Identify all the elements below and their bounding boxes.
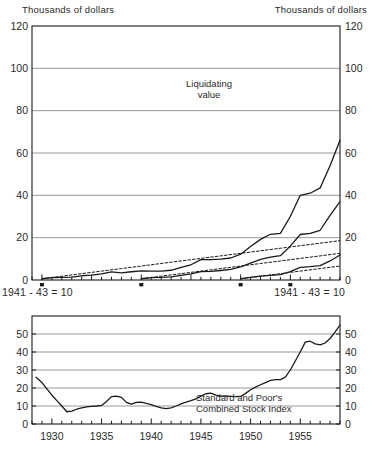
y-tick-label-left: 30 bbox=[16, 364, 28, 376]
y-tick-label-left: 40 bbox=[16, 346, 28, 358]
y-tick-label-left: 40 bbox=[16, 189, 28, 201]
y-tick-label-right: 60 bbox=[345, 147, 357, 159]
y-tick-label-left: 20 bbox=[16, 382, 28, 394]
y-tick-label-left: 80 bbox=[16, 104, 28, 116]
y-tick-label-left: 0 bbox=[22, 274, 28, 286]
y-tick-label-right: 0 bbox=[345, 274, 351, 286]
series-line-solid bbox=[36, 325, 340, 412]
x-tick-label: 1950 bbox=[239, 430, 263, 442]
y-tick-label-right: 30 bbox=[345, 364, 357, 376]
y-tick-label-right: 20 bbox=[345, 231, 357, 243]
y-tick-label-right: 40 bbox=[345, 189, 357, 201]
x-tick-label: 1955 bbox=[289, 430, 313, 442]
program-start-marker bbox=[40, 283, 44, 286]
y-tick-label-right: 10 bbox=[345, 400, 357, 412]
program-start-marker bbox=[139, 283, 143, 286]
y-tick-label-left: 10 bbox=[16, 400, 28, 412]
y-tick-label-left: 0 bbox=[22, 418, 28, 430]
figure-container: Thousands of dollars Thousands of dollar… bbox=[0, 0, 373, 450]
y-tick-label-right: 20 bbox=[345, 382, 357, 394]
y-tick-label-left: 120 bbox=[10, 20, 28, 32]
y-tick-label-right: 120 bbox=[345, 20, 363, 32]
top-panel: 002020404060608080100100120120 bbox=[10, 20, 362, 287]
y-tick-label-right: 80 bbox=[345, 104, 357, 116]
program-start-marker bbox=[239, 283, 243, 286]
y-tick-label-right: 50 bbox=[345, 328, 357, 340]
x-tick-label: 1940 bbox=[140, 430, 164, 442]
x-tick-label: 1945 bbox=[189, 430, 213, 442]
chart-svg: 0020204040606080801001001201200010102020… bbox=[0, 0, 373, 450]
x-tick-label: 1930 bbox=[40, 430, 64, 442]
x-tick-label: 1935 bbox=[90, 430, 114, 442]
y-tick-label-right: 100 bbox=[345, 62, 363, 74]
y-tick-label-left: 60 bbox=[16, 147, 28, 159]
series-line-solid bbox=[42, 140, 340, 278]
series-line-dotted bbox=[42, 241, 340, 279]
y-tick-label-right: 0 bbox=[345, 418, 351, 430]
y-tick-label-left: 50 bbox=[16, 328, 28, 340]
y-tick-label-left: 20 bbox=[16, 231, 28, 243]
y-tick-label-left: 100 bbox=[10, 62, 28, 74]
y-tick-label-right: 40 bbox=[345, 346, 357, 358]
bottom-panel: 0010102020303040405050193019351940194519… bbox=[16, 316, 357, 442]
program-start-marker bbox=[288, 283, 292, 286]
